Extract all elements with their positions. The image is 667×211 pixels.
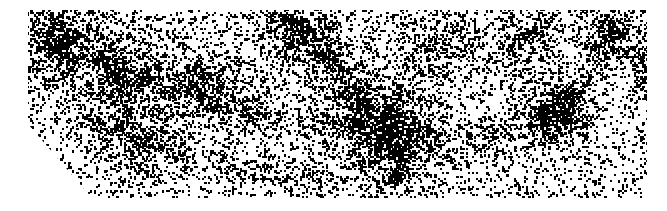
- galaxy-density-map: [0, 0, 667, 211]
